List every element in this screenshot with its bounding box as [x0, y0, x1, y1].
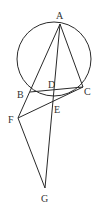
line-segments — [18, 24, 83, 188]
point-labels: A B C D E F G — [8, 10, 91, 204]
label-g: G — [41, 193, 48, 204]
label-c: C — [84, 86, 91, 97]
label-e: E — [54, 104, 60, 115]
segment-fc — [18, 87, 83, 118]
label-d: D — [48, 79, 55, 90]
label-b: B — [17, 89, 24, 100]
geometry-diagram: A B C D E F G — [0, 0, 96, 209]
segment-ac — [60, 24, 83, 87]
segment-fg — [18, 118, 45, 188]
label-f: F — [8, 114, 14, 125]
label-a: A — [56, 10, 64, 21]
